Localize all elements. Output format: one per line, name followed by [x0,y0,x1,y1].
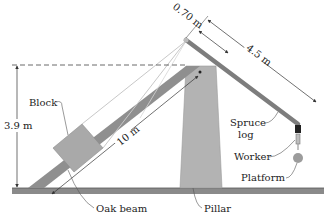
platform-leader [286,163,297,178]
long-arm-label: 4.5 m [244,42,274,68]
height-label: 3.9 m [4,120,33,131]
oak-beam [28,66,200,188]
short-arm-ext [186,26,196,38]
short-arm-label: 0.70 m [171,1,206,31]
pillar-label: Pillar [204,203,231,214]
block-leader [56,102,68,136]
worker-label: Worker [234,151,271,162]
worker [295,125,301,150]
worker-leader [269,140,295,157]
diagram-canvas: 3.9 m 10 m 0.70 m 4.5 m Block Spruce log… [0,0,327,220]
platform [293,153,303,163]
spruce-log-label-line1: Spruce [230,117,266,128]
short-arm-dimension-line [199,31,228,53]
spruce-log-leader [265,112,278,123]
rope [103,41,186,148]
pillar [180,66,222,188]
spruce-log-label-line2: log [238,129,254,140]
pivot [199,71,202,74]
platform-label: Platform [241,172,285,183]
oak-beam-label: Oak beam [96,203,148,214]
block-label: Block [29,97,58,108]
